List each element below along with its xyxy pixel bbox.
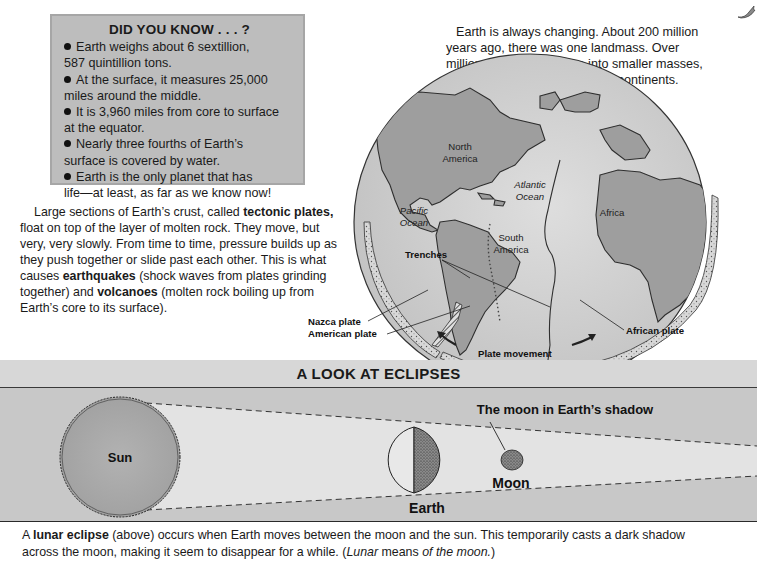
callout-african-plate: African plate [626, 325, 684, 336]
label-moon-in-shadow: The moon in Earth’s shadow [477, 402, 654, 417]
svg-text:America: America [442, 153, 478, 164]
label-north-america: North [448, 141, 471, 152]
callout-american-plate: American plate [308, 328, 377, 339]
lunar-eclipse-diagram: Sun Earth Moon The moon in Earth’s shado… [0, 388, 757, 521]
svg-text:America: America [493, 244, 529, 255]
callout-nazca-plate: Nazca plate [308, 316, 361, 327]
svg-text:Ocean: Ocean [516, 191, 544, 202]
lunar-eclipse-caption: A lunar eclipse (above) occurs when Eart… [22, 527, 742, 561]
svg-text:Ocean: Ocean [400, 217, 428, 228]
label-earth: Earth [409, 500, 445, 516]
label-moon: Moon [492, 475, 529, 491]
eclipse-section-title: A LOOK AT ECLIPSES [0, 360, 757, 388]
globe-illustration: North America Atlantic Ocean Pacific Oce… [0, 0, 757, 360]
label-sun: Sun [108, 450, 133, 465]
moon-icon [501, 450, 523, 470]
label-south-america: South [498, 232, 523, 243]
label-africa: Africa [600, 207, 625, 218]
callout-trenches: Trenches [405, 249, 447, 260]
label-pacific-ocean: Pacific [400, 205, 428, 216]
callout-plate-movement: Plate movement [478, 348, 552, 359]
sunlight-cone [146, 403, 757, 510]
label-atlantic-ocean: Atlantic [513, 179, 546, 190]
